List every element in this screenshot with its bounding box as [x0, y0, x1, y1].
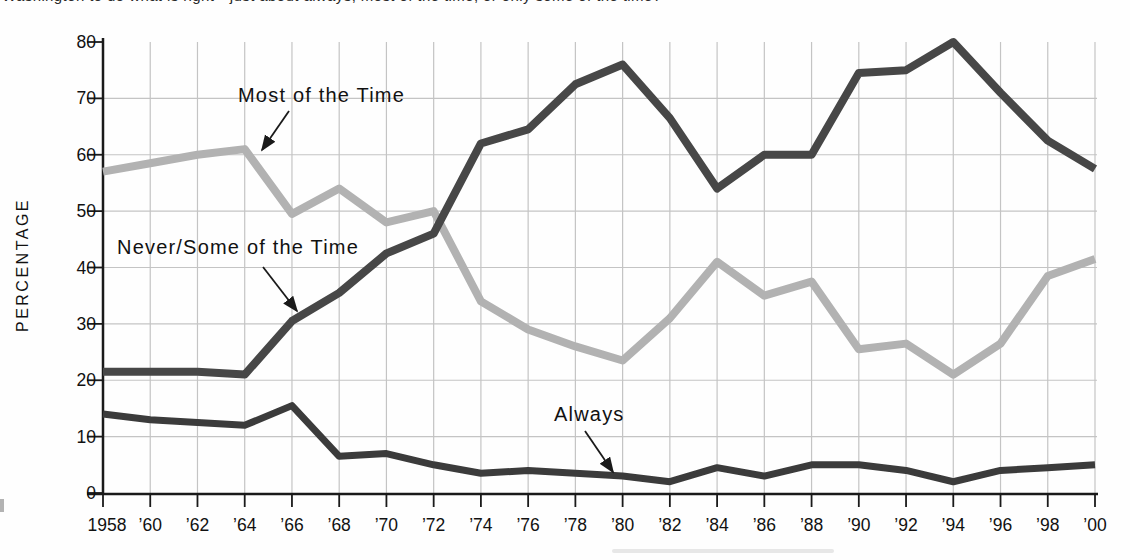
axis-ticks	[87, 42, 1095, 507]
annotation-label-never-some-of-the-time: Never/Some of the Time	[117, 236, 359, 258]
chart-area: 010203040506070801958’60’62’64’66’68’70’…	[0, 0, 1130, 560]
annotation-label-always: Always	[554, 403, 625, 425]
trust-in-government-chart: 010203040506070801958’60’62’64’66’68’70’…	[0, 0, 1130, 560]
x-tick-labels: 1958’60’62’64’66’68’70’72’74’76’78’80’82…	[88, 515, 1107, 535]
x-tick-label: ’72	[422, 515, 445, 535]
x-tick-label: ’96	[989, 515, 1012, 535]
x-tick-label: ’82	[658, 515, 681, 535]
x-tick-label: ’70	[375, 515, 399, 535]
y-axis-title: PERCENTAGE	[14, 198, 31, 332]
x-tick-label: ’94	[942, 515, 966, 535]
x-tick-label: ’68	[328, 515, 351, 535]
scan-artifact	[612, 549, 834, 553]
x-tick-label: ’90	[847, 515, 871, 535]
x-tick-label: ’00	[1083, 515, 1107, 535]
x-tick-label: ’78	[564, 515, 587, 535]
y-tick-label: 10	[77, 427, 97, 447]
y-tick-label: 80	[77, 32, 97, 52]
y-tick-label: 30	[77, 314, 97, 334]
x-tick-label: ’92	[894, 515, 917, 535]
y-tick-labels: 01020304050607080	[77, 32, 97, 503]
x-tick-label: ’62	[186, 515, 209, 535]
x-tick-label: ’98	[1036, 515, 1059, 535]
annotations: Most of the TimeNever/Some of the TimeAl…	[117, 84, 625, 472]
page-edge-mark	[0, 499, 4, 512]
y-tick-label: 20	[77, 370, 97, 390]
y-tick-label: 60	[77, 145, 97, 165]
x-tick-label: ’74	[469, 515, 493, 535]
page: { "page": { "clipped_top_caption": "Wash…	[0, 0, 1130, 560]
annotation-arrow-most-of-the-time	[262, 111, 289, 150]
x-tick-label: ’66	[280, 515, 303, 535]
y-tick-label: 70	[77, 88, 97, 108]
x-tick-label: ’60	[139, 515, 163, 535]
y-tick-label: 40	[77, 258, 97, 278]
x-tick-label: ’84	[705, 515, 729, 535]
x-tick-label: 1958	[88, 515, 127, 535]
x-tick-label: ’86	[753, 515, 776, 535]
x-tick-label: ’88	[800, 515, 823, 535]
y-tick-label: 0	[86, 483, 96, 503]
x-tick-label: ’76	[516, 515, 539, 535]
x-tick-label: ’80	[611, 515, 635, 535]
x-tick-label: ’64	[233, 515, 257, 535]
y-tick-label: 50	[77, 201, 97, 221]
series-line-most-of-the-time	[103, 149, 1095, 374]
annotation-label-most-of-the-time: Most of the Time	[238, 84, 405, 106]
